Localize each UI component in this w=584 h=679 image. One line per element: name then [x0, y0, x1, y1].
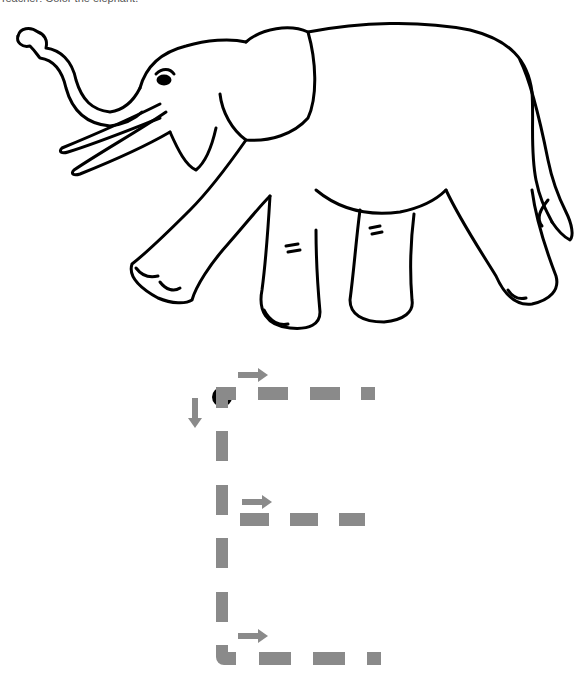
guide-dash: [367, 652, 381, 665]
guide-dash: [310, 387, 340, 400]
guide-dash: [216, 538, 228, 568]
guide-dash: [339, 513, 365, 526]
elephant-illustration: [0, 0, 584, 340]
guide-dash: [258, 387, 288, 400]
guide-dash: [313, 652, 345, 665]
guide-dash: [216, 645, 236, 665]
guide-dash: [361, 387, 375, 400]
guide-dash: [216, 592, 228, 622]
guide-dash: [290, 513, 318, 526]
arrow-right-icon: [242, 495, 274, 509]
guide-dash: [216, 485, 228, 515]
arrow-right-icon: [238, 368, 270, 382]
guide-dash: [216, 431, 228, 461]
guide-dash: [216, 387, 236, 400]
arrow-down-icon: [188, 398, 202, 430]
guide-dash: [259, 652, 291, 665]
arrow-right-icon: [238, 629, 270, 643]
guide-dash: [240, 513, 269, 526]
guide-dash: [216, 400, 228, 408]
